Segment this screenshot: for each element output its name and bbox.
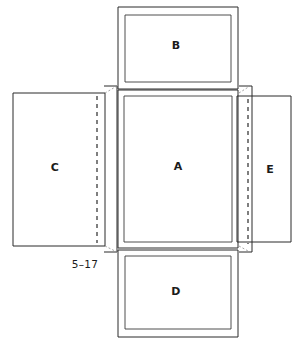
right-tab-top-corner-cut — [239, 86, 250, 93]
left-tab-outline — [104, 86, 117, 252]
panel-d-label: D — [171, 285, 180, 298]
panel-a-label: A — [174, 160, 183, 173]
panel-e-outline — [237, 96, 291, 242]
right-tab-outline — [239, 86, 252, 252]
left-tab-bottom-corner-cut — [105, 246, 117, 252]
right-tab-strip — [239, 86, 252, 252]
panel-c-label: C — [51, 161, 59, 174]
figure-number-caption: 5–17 — [72, 258, 99, 270]
left-tab-strip — [104, 86, 117, 252]
figure-container: B C A — [0, 0, 302, 344]
box-net-diagram: B C A — [0, 0, 302, 344]
panel-a-group: A — [118, 90, 238, 248]
panel-d-group: D — [118, 250, 238, 337]
panel-b-label: B — [172, 39, 181, 52]
panel-b-group: B — [118, 7, 238, 89]
panel-c-group: C — [13, 93, 105, 246]
panel-e-label: E — [266, 163, 274, 176]
panel-e-group: E — [237, 96, 291, 244]
left-tab-top-corner-cut — [105, 86, 117, 93]
right-tab-bottom-corner-cut — [239, 246, 250, 252]
